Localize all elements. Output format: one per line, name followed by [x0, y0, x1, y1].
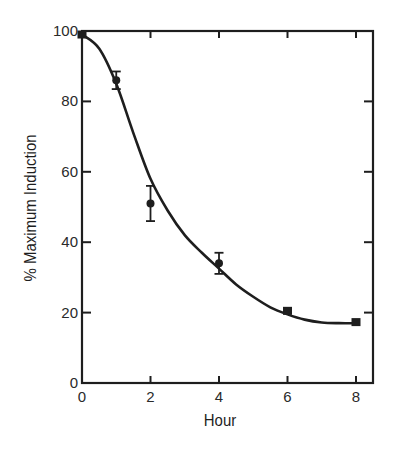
plot-border	[82, 31, 373, 383]
axis-ticks	[82, 31, 373, 383]
y-tick-label: 80	[61, 92, 78, 109]
y-tick-label: 40	[61, 233, 78, 250]
x-tick-label: 6	[283, 388, 291, 405]
data-points	[78, 31, 361, 327]
x-axis-title: Hour	[204, 411, 237, 429]
data-point	[352, 318, 361, 326]
circle-marker	[112, 76, 120, 84]
x-tick-label: 8	[352, 388, 360, 405]
circle-marker	[147, 199, 155, 207]
circle-marker	[215, 259, 223, 267]
data-point	[283, 307, 292, 315]
chart: 02468 020406080100 Hour % Maximum Induct…	[0, 0, 395, 451]
square-marker	[78, 31, 87, 39]
y-tick-label: 20	[61, 304, 78, 321]
square-marker	[283, 307, 292, 315]
y-tick-label: 0	[70, 374, 78, 391]
plot-frame	[82, 31, 373, 383]
data-point	[146, 186, 155, 221]
x-tick-labels: 02468	[78, 388, 360, 405]
x-tick-label: 2	[146, 388, 154, 405]
data-point	[78, 31, 87, 39]
y-tick-labels: 020406080100	[53, 22, 78, 391]
y-tick-label: 60	[61, 163, 78, 180]
y-tick-label: 100	[53, 22, 78, 39]
fitted-curve	[82, 35, 356, 324]
square-marker	[352, 318, 361, 326]
x-tick-label: 4	[215, 388, 223, 405]
y-axis-title: % Maximum Induction	[21, 134, 39, 281]
x-tick-label: 0	[78, 388, 86, 405]
